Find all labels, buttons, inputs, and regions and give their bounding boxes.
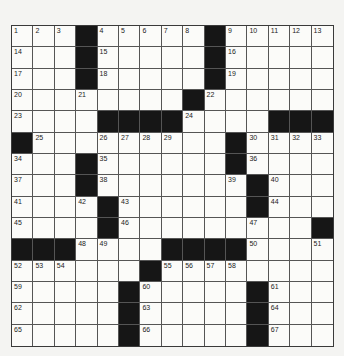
- grid-cell[interactable]: 48: [76, 239, 97, 260]
- grid-cell[interactable]: [55, 90, 76, 111]
- grid-cell[interactable]: [290, 239, 311, 260]
- grid-cell[interactable]: 13: [312, 26, 333, 47]
- grid-cell[interactable]: [290, 282, 311, 303]
- grid-cell[interactable]: [55, 197, 76, 218]
- grid-cell[interactable]: 53: [33, 261, 54, 282]
- grid-cell[interactable]: [162, 69, 183, 90]
- grid-cell[interactable]: 29: [162, 133, 183, 154]
- grid-cell[interactable]: [33, 154, 54, 175]
- grid-cell[interactable]: 12: [290, 26, 311, 47]
- grid-cell[interactable]: [140, 90, 161, 111]
- grid-cell[interactable]: 64: [269, 303, 290, 324]
- grid-cell[interactable]: [226, 111, 247, 132]
- grid-cell[interactable]: [312, 325, 333, 346]
- grid-cell[interactable]: [290, 175, 311, 196]
- grid-cell[interactable]: 66: [140, 325, 161, 346]
- grid-cell[interactable]: [140, 154, 161, 175]
- grid-cell[interactable]: [33, 111, 54, 132]
- grid-cell[interactable]: 17: [12, 69, 33, 90]
- grid-cell[interactable]: [55, 133, 76, 154]
- grid-cell[interactable]: [76, 111, 97, 132]
- grid-cell[interactable]: [162, 90, 183, 111]
- grid-cell[interactable]: 62: [12, 303, 33, 324]
- grid-cell[interactable]: [98, 325, 119, 346]
- grid-cell[interactable]: [312, 282, 333, 303]
- grid-cell[interactable]: [140, 47, 161, 68]
- grid-cell[interactable]: [140, 239, 161, 260]
- grid-cell[interactable]: [119, 175, 140, 196]
- grid-cell[interactable]: 20: [12, 90, 33, 111]
- grid-cell[interactable]: [205, 303, 226, 324]
- grid-cell[interactable]: 28: [140, 133, 161, 154]
- grid-cell[interactable]: 49: [98, 239, 119, 260]
- grid-cell[interactable]: [290, 47, 311, 68]
- grid-cell[interactable]: [312, 197, 333, 218]
- grid-cell[interactable]: [33, 175, 54, 196]
- grid-cell[interactable]: [55, 154, 76, 175]
- grid-cell[interactable]: [312, 47, 333, 68]
- grid-cell[interactable]: [290, 261, 311, 282]
- grid-cell[interactable]: [226, 218, 247, 239]
- grid-cell[interactable]: [183, 154, 204, 175]
- grid-cell[interactable]: [226, 282, 247, 303]
- grid-cell[interactable]: 24: [183, 111, 204, 132]
- grid-cell[interactable]: 23: [12, 111, 33, 132]
- grid-cell[interactable]: [33, 325, 54, 346]
- grid-cell[interactable]: [205, 154, 226, 175]
- grid-cell[interactable]: [290, 69, 311, 90]
- grid-cell[interactable]: 65: [12, 325, 33, 346]
- grid-cell[interactable]: 1: [12, 26, 33, 47]
- grid-cell[interactable]: 31: [269, 133, 290, 154]
- grid-cell[interactable]: [247, 69, 268, 90]
- grid-cell[interactable]: [312, 90, 333, 111]
- grid-cell[interactable]: [205, 197, 226, 218]
- grid-cell[interactable]: [140, 197, 161, 218]
- grid-cell[interactable]: [205, 282, 226, 303]
- grid-cell[interactable]: 35: [98, 154, 119, 175]
- grid-cell[interactable]: [247, 90, 268, 111]
- grid-cell[interactable]: 61: [269, 282, 290, 303]
- grid-cell[interactable]: [162, 282, 183, 303]
- grid-cell[interactable]: [183, 197, 204, 218]
- grid-cell[interactable]: 40: [269, 175, 290, 196]
- grid-cell[interactable]: 38: [98, 175, 119, 196]
- grid-cell[interactable]: [269, 154, 290, 175]
- grid-cell[interactable]: [205, 175, 226, 196]
- grid-cell[interactable]: [98, 261, 119, 282]
- grid-cell[interactable]: 47: [247, 218, 268, 239]
- grid-cell[interactable]: [226, 197, 247, 218]
- grid-cell[interactable]: [76, 133, 97, 154]
- grid-cell[interactable]: [55, 175, 76, 196]
- grid-cell[interactable]: [247, 111, 268, 132]
- grid-cell[interactable]: 43: [119, 197, 140, 218]
- grid-cell[interactable]: [290, 303, 311, 324]
- grid-cell[interactable]: [55, 282, 76, 303]
- grid-cell[interactable]: 56: [183, 261, 204, 282]
- grid-cell[interactable]: [290, 197, 311, 218]
- grid-cell[interactable]: 59: [12, 282, 33, 303]
- grid-cell[interactable]: [162, 175, 183, 196]
- grid-cell[interactable]: [33, 47, 54, 68]
- grid-cell[interactable]: 15: [98, 47, 119, 68]
- grid-cell[interactable]: [98, 303, 119, 324]
- grid-cell[interactable]: [312, 303, 333, 324]
- grid-cell[interactable]: 45: [12, 218, 33, 239]
- grid-cell[interactable]: [269, 261, 290, 282]
- grid-cell[interactable]: [33, 90, 54, 111]
- grid-cell[interactable]: [269, 90, 290, 111]
- grid-cell[interactable]: 6: [140, 26, 161, 47]
- grid-cell[interactable]: [55, 111, 76, 132]
- grid-cell[interactable]: [162, 325, 183, 346]
- grid-cell[interactable]: [119, 47, 140, 68]
- grid-cell[interactable]: [119, 261, 140, 282]
- grid-cell[interactable]: 63: [140, 303, 161, 324]
- grid-cell[interactable]: [55, 69, 76, 90]
- grid-cell[interactable]: [312, 175, 333, 196]
- grid-cell[interactable]: 51: [312, 239, 333, 260]
- grid-cell[interactable]: 50: [247, 239, 268, 260]
- grid-cell[interactable]: [33, 303, 54, 324]
- grid-cell[interactable]: [33, 69, 54, 90]
- grid-cell[interactable]: [290, 325, 311, 346]
- grid-cell[interactable]: [183, 282, 204, 303]
- grid-cell[interactable]: 57: [205, 261, 226, 282]
